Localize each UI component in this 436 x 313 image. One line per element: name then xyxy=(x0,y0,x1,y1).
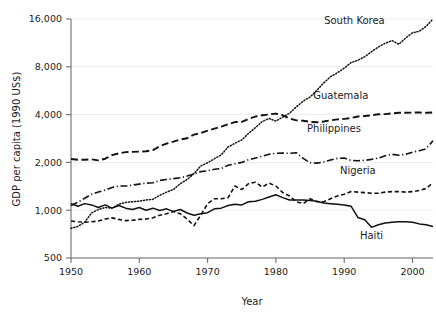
series-line-haiti xyxy=(71,195,433,228)
x-tick-label-2000: 2000 xyxy=(400,266,424,277)
x-tick-label-1980: 1980 xyxy=(264,266,288,277)
axis-group xyxy=(71,19,433,258)
y-tick-label-16000: 16,000 xyxy=(29,13,62,24)
y-tick-label-500: 500 xyxy=(44,252,62,263)
y-tick-group: 5001,0002,0004,0008,00016,000 xyxy=(29,13,71,263)
series-label-philippines: Philippines xyxy=(307,123,361,134)
y-axis-title: GDP per capita (1990 US$) xyxy=(11,71,22,206)
chart-figure: 5001,0002,0004,0008,00016,000 1950196019… xyxy=(0,0,436,313)
x-tick-label-1970: 1970 xyxy=(196,266,220,277)
y-tick-label-2000: 2,000 xyxy=(35,157,62,168)
series-line-philippines xyxy=(71,141,433,206)
x-tick-group: 195019601970198019902000 xyxy=(59,258,425,277)
series-label-nigeria: Nigeria xyxy=(340,165,376,176)
y-tick-label-1000: 1,000 xyxy=(35,205,62,216)
series-group xyxy=(71,19,433,228)
series-label-haiti: Haiti xyxy=(360,230,383,241)
series-line-nigeria xyxy=(71,182,433,225)
gdp-per-capita-line-chart: 5001,0002,0004,0008,00016,000 1950196019… xyxy=(0,0,436,313)
y-tick-label-8000: 8,000 xyxy=(35,61,62,72)
series-label-south-korea: South Korea xyxy=(324,15,385,26)
series-label-group: South KoreaGuatemalaPhilippinesNigeriaHa… xyxy=(307,15,385,240)
x-tick-label-1960: 1960 xyxy=(127,266,151,277)
x-tick-label-1990: 1990 xyxy=(332,266,356,277)
x-tick-label-1950: 1950 xyxy=(59,266,83,277)
gridline-group xyxy=(71,19,433,258)
x-axis-title: Year xyxy=(240,296,263,307)
y-tick-label-4000: 4,000 xyxy=(35,109,62,120)
series-label-guatemala: Guatemala xyxy=(313,90,368,101)
series-line-south-korea xyxy=(71,19,433,228)
series-line-guatemala xyxy=(71,112,433,160)
